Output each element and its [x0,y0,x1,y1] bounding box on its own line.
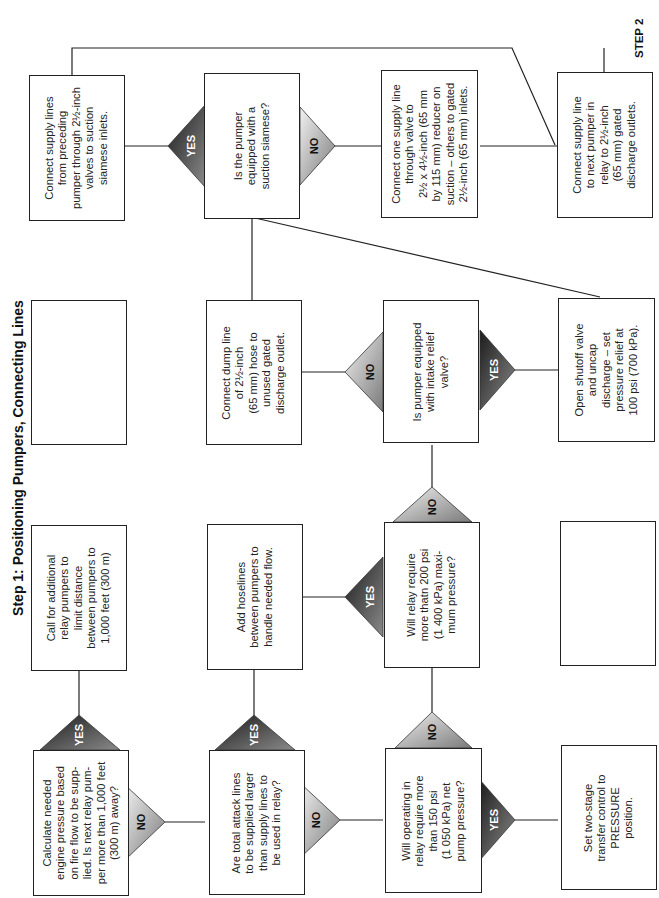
node-text: Open shutoff valve and uncap discharge –… [573,300,640,440]
node-connect-next-pumper: Connect supply line to next pumper in re… [557,72,653,218]
node-text: Is the pumper equipped with a suction si… [232,76,272,216]
no-label-relay-200: NO [426,499,438,516]
no-label-intake-relief: NO [364,364,376,381]
node-text: Are total attack lines to be supplied la… [230,753,284,893]
node-text: Is pumper equipped with intake relief va… [411,303,451,441]
yes-label-siamese: YES [185,135,197,157]
node-text: Connect supply line to next pumper in re… [571,75,638,215]
node-text: Connect dump line of 2½-inch (65 mm) hos… [220,303,287,443]
no-label-operating: NO [426,724,438,741]
node-empty-box-1 [31,300,127,445]
node-text: Calculate needed engine pressure based o… [41,751,121,895]
node-text: Set two-stage transfer control to PRESSU… [582,748,636,888]
node-text: Connect one supply line through valve to… [389,71,469,217]
node-two-stage-transfer: Set two-stage transfer control to PRESSU… [561,745,657,890]
node-text: Add hoselines between pumpers to handle … [235,527,275,667]
node-call-additional: Call for additional relay pumpers to lim… [31,525,127,671]
yes-label-calc: YES [73,724,85,746]
no-label-calc: NO [135,814,147,831]
yes-label-relay-200: YES [364,586,376,608]
node-connect-one-supply: Connect one supply line through valve to… [381,70,478,218]
node-add-hoselines: Add hoselines between pumpers to handle … [207,524,303,670]
node-connect-supply-siamese: Connect supply lines from preceding pump… [29,75,125,221]
yes-label-operating: YES [488,809,500,831]
node-calc-pressure: Calculate needed engine pressure based o… [33,750,129,896]
node-intake-relief-question: Is pumper equipped with intake relief va… [383,300,479,443]
node-empty-box-2 [560,521,656,666]
node-suction-siamese-question: Is the pumper equipped with a suction si… [204,73,300,219]
page-title: Step 1: Positioning Pumpers, Connecting … [10,233,30,683]
node-connect-dump-line: Connect dump line of 2½-inch (65 mm) hos… [206,300,302,445]
node-operating-150psi-question: Will operating in relay require more tha… [385,748,482,893]
step2-label: STEP 2 [633,0,649,58]
no-label-siamese: NO [308,138,320,155]
node-text: Will relay require more thatn 200 psi (1… [405,525,459,665]
no-label-attack-lines: NO [310,812,322,829]
yes-label-intake-relief: YES [488,359,500,381]
node-attack-lines-larger: Are total attack lines to be supplied la… [209,750,305,895]
yes-label-attack-lines: YES [248,724,260,746]
node-relay-200psi-question: Will relay require more thatn 200 psi (1… [384,522,480,668]
node-text: Call for additional relay pumpers to lim… [45,528,112,668]
node-open-shutoff: Open shutoff valve and uncap discharge –… [558,298,655,442]
node-text: Connect supply lines from preceding pump… [43,78,110,218]
flowchart-canvas: Step 1: Positioning Pumpers, Connecting … [0,0,659,898]
node-text: Will operating in relay require more tha… [400,751,467,891]
